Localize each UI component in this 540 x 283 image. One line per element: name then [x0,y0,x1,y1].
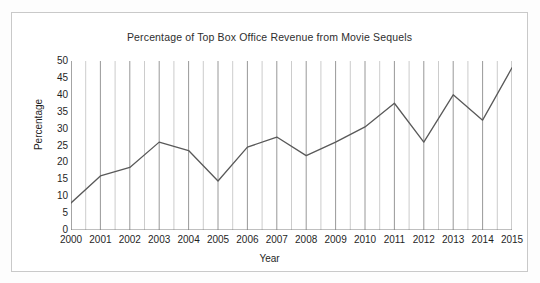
y-tick-label: 5 [46,208,68,218]
x-axis-tick-labels: 2000200120022003200420052006200720082009… [71,234,512,250]
x-tick-label: 2015 [492,234,532,245]
chart-screenshot: Percentage of Top Box Office Revenue fro… [0,0,540,283]
y-tick-label: 25 [46,141,68,151]
x-axis-title: Year [12,253,527,264]
plot-area [71,61,512,230]
y-tick-label: 30 [46,124,68,134]
y-tick-label: 10 [46,191,68,201]
chart-title: Percentage of Top Box Office Revenue fro… [12,31,527,43]
y-tick-label: 20 [46,157,68,167]
y-tick-label: 35 [46,107,68,117]
chart-frame: Percentage of Top Box Office Revenue fro… [11,12,528,272]
vertical-gridlines [71,61,512,230]
y-tick-label: 50 [46,56,68,66]
y-tick-label: 15 [46,174,68,184]
y-axis-tick-labels: 50454035302520151050 [42,61,68,230]
y-tick-label: 40 [46,90,68,100]
line-chart-svg [71,61,512,230]
y-tick-label: 45 [46,73,68,83]
